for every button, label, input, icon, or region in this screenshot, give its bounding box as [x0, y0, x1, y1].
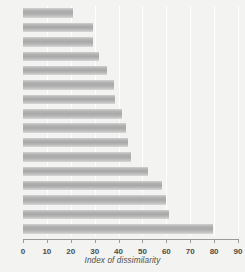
x-axis-tick — [95, 239, 96, 243]
gridline — [238, 6, 239, 236]
bar[interactable] — [23, 52, 99, 62]
x-axis-tick-label: 20 — [66, 247, 75, 256]
bar-row[interactable]: Asian — [23, 150, 238, 164]
x-axis-tick-label: 60 — [162, 247, 171, 256]
x-axis-tick-label: 90 — [234, 247, 243, 256]
x-axis-tick — [238, 239, 239, 243]
bar-row[interactable]: bbean — [23, 179, 238, 193]
bar-row[interactable]: mixed — [23, 49, 238, 63]
bar[interactable] — [23, 210, 169, 220]
bar[interactable] — [23, 95, 115, 105]
bar[interactable] — [23, 66, 107, 76]
bar-row[interactable]: kistani — [23, 207, 238, 221]
bar-row[interactable]: adeshi — [23, 222, 238, 236]
bar[interactable] — [23, 23, 93, 33]
bar[interactable] — [23, 224, 213, 234]
bar-row[interactable]: Black — [23, 193, 238, 207]
x-axis-tick — [119, 239, 120, 243]
bar[interactable] — [23, 109, 122, 119]
bar[interactable] — [23, 195, 166, 205]
bar-row[interactable]: c Irish — [23, 6, 238, 20]
bar-row[interactable]: bbean — [23, 64, 238, 78]
bar[interactable] — [23, 181, 162, 191]
bar-row[interactable]: hinese — [23, 78, 238, 92]
x-axis-title: Index of dissimilarity — [0, 256, 245, 265]
bar-row[interactable]: group — [23, 135, 238, 149]
bar-row[interactable]: ndian — [23, 107, 238, 121]
x-axis: 0102030405060708090 — [23, 239, 238, 240]
bar[interactable] — [23, 80, 114, 90]
x-axis-tick-label: 70 — [186, 247, 195, 256]
bar[interactable] — [23, 123, 126, 133]
bar[interactable] — [23, 8, 73, 18]
bars-layer: c IrishWhiteAsianmixedbbeanhinesefricann… — [23, 6, 238, 236]
x-axis-tick-label: 50 — [138, 247, 147, 256]
x-axis-tick — [47, 239, 48, 243]
x-axis-tick-label: 10 — [42, 247, 51, 256]
bar[interactable] — [23, 37, 93, 47]
x-axis-tick — [23, 239, 24, 243]
bar-row[interactable]: White — [23, 20, 238, 34]
bar-row[interactable]: ritish — [23, 121, 238, 135]
horizontal-bar-chart: c IrishWhiteAsianmixedbbeanhinesefricann… — [0, 0, 245, 272]
bar[interactable] — [23, 167, 148, 177]
x-axis-tick — [190, 239, 191, 243]
bar-row[interactable]: frican — [23, 92, 238, 106]
bar-row[interactable]: Asian — [23, 35, 238, 49]
bar-row[interactable]: frican — [23, 164, 238, 178]
plot-area: c IrishWhiteAsianmixedbbeanhinesefricann… — [23, 6, 238, 236]
x-axis-tick-label: 40 — [114, 247, 123, 256]
x-axis-tick-label: 0 — [21, 247, 25, 256]
bar[interactable] — [23, 138, 128, 148]
x-axis-tick — [71, 239, 72, 243]
x-axis-tick — [166, 239, 167, 243]
x-axis-tick — [142, 239, 143, 243]
bar[interactable] — [23, 152, 131, 162]
x-axis-tick-label: 80 — [210, 247, 219, 256]
x-axis-tick-label: 30 — [90, 247, 99, 256]
x-axis-tick — [214, 239, 215, 243]
